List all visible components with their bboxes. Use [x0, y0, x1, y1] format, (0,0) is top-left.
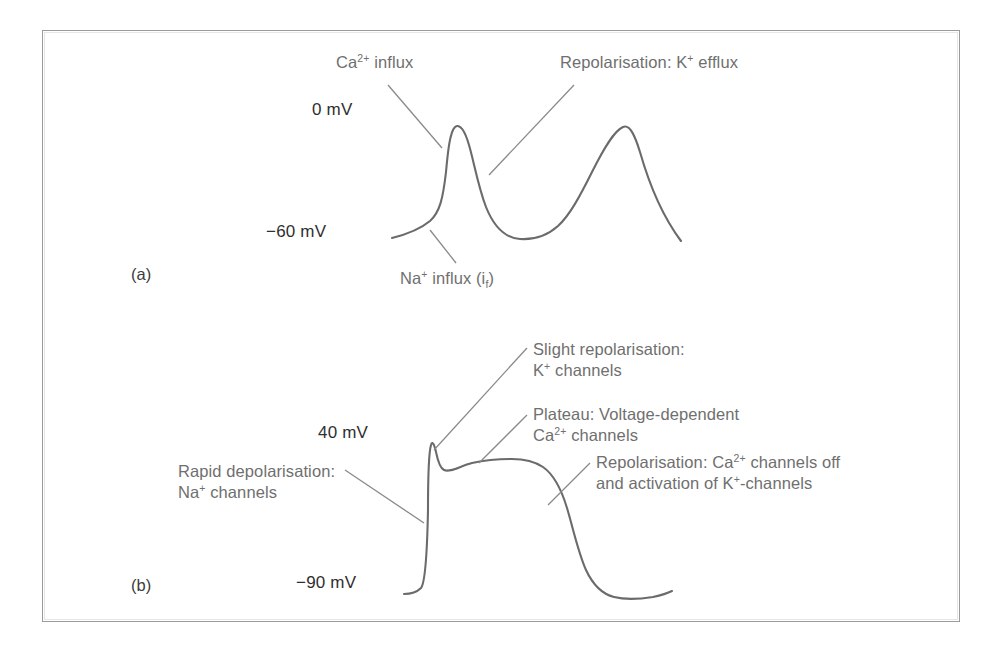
- panel-b-curve: [404, 443, 672, 599]
- leader-k-efflux: [489, 85, 574, 175]
- ventricular-potential-trace: [404, 443, 672, 599]
- leader-slight-repolarisation: [434, 348, 527, 450]
- figure-graphics: [0, 0, 999, 658]
- leader-plateau: [479, 415, 527, 463]
- leader-rapid-depolarisation: [345, 470, 424, 523]
- figure-page: 0 mV −60 mV Ca2+ influx Repolarisation: …: [0, 0, 999, 658]
- leader-ca-influx: [388, 85, 442, 148]
- panel-a-leader-lines: [388, 85, 574, 263]
- panel-b-leader-lines: [345, 348, 590, 523]
- panel-a-curve: [392, 126, 681, 241]
- pacemaker-potential-trace: [392, 126, 681, 241]
- leader-repolarisation-ca-off: [548, 463, 590, 505]
- leader-na-influx: [430, 230, 456, 263]
